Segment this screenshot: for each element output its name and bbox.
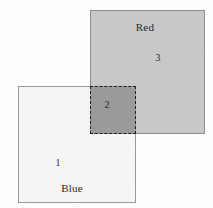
set-name-label-blue: Blue — [61, 183, 83, 194]
set-region-intersection[interactable] — [90, 86, 136, 134]
region-number-label-2: 2 — [104, 100, 109, 110]
region-number-label-1: 1 — [55, 158, 60, 168]
diagram-canvas: Red 3 2 1 Blue — [0, 0, 213, 208]
region-number-label-3: 3 — [155, 53, 160, 63]
set-name-label-red: Red — [136, 22, 154, 33]
